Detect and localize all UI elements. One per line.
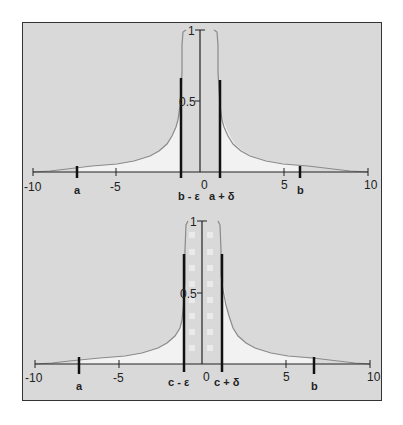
bottom-tick-y05: 0.5 <box>180 287 197 301</box>
top-tick-y1: 1 <box>188 24 195 38</box>
top-tick-p10: 10 <box>364 178 378 192</box>
top-plot: -10 -5 0 5 10 1 0.5 a b b - ε a + δ <box>24 24 378 202</box>
bottom-label-b: b <box>311 380 318 392</box>
top-tick-0: 0 <box>201 178 208 192</box>
bottom-tick-p10: 10 <box>367 370 381 384</box>
bottom-plot: -10 -5 0 5 10 1 0.5 a b c - ε c + δ <box>25 215 381 392</box>
top-shaded-left <box>76 112 182 172</box>
top-tick-m10: -10 <box>24 180 42 194</box>
top-label-a-plus-delta: a + δ <box>209 190 235 202</box>
bottom-label-c-plus-delta: c + δ <box>214 376 240 388</box>
top-label-b-minus-eps: b - ε <box>178 190 200 202</box>
bottom-shaded-left <box>79 312 184 364</box>
top-label-a: a <box>74 184 81 196</box>
bottom-tick-y1: 1 <box>190 215 197 229</box>
bottom-label-c-minus-eps: c - ε <box>168 376 190 388</box>
bottom-tick-m5: -5 <box>113 371 124 385</box>
bottom-tick-m10: -10 <box>25 371 43 385</box>
top-tick-m5: -5 <box>110 180 121 194</box>
bottom-shaded-right <box>222 275 314 364</box>
top-tick-y05: 0.5 <box>179 95 196 109</box>
bottom-tick-p5: 5 <box>283 370 290 384</box>
bottom-label-a: a <box>76 380 83 392</box>
bottom-tick-0: 0 <box>203 370 210 384</box>
top-tick-p5: 5 <box>281 178 288 192</box>
top-label-b: b <box>297 184 304 196</box>
improper-integral-diagram: -10 -5 0 5 10 1 0.5 a b b - ε a + δ <box>0 0 403 425</box>
